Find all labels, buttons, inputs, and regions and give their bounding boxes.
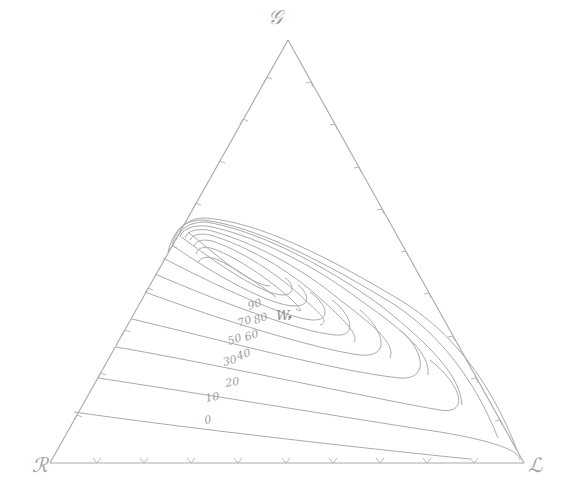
- contour-30: [132, 319, 420, 378]
- point-w: W.: [276, 308, 292, 323]
- contour-0: [74, 412, 470, 459]
- contour-label-80: 80: [252, 310, 269, 327]
- vertex-label-top: 𝒢: [268, 5, 286, 29]
- contour-label-20: 20: [223, 375, 240, 390]
- vertex-label-bottom-left: ℛ: [32, 453, 50, 477]
- contour-label-10: 10: [204, 390, 220, 405]
- contour-label-90: 90: [246, 296, 263, 313]
- triangle-frame: [50, 40, 524, 463]
- bottom-ticks: [93, 458, 478, 463]
- ternary-diagram: 𝒢 ℛ ℒ 0 10 20 30 40 50 60 70 80 90 W.: [0, 0, 578, 504]
- point-w-label: W.: [276, 308, 291, 323]
- contour-lines: [74, 218, 520, 460]
- right-ticks: [306, 82, 502, 425]
- point-w-marker: [288, 315, 291, 318]
- contour-label-0: 0: [203, 413, 212, 427]
- vertex-label-bottom-right: ℒ: [528, 453, 543, 477]
